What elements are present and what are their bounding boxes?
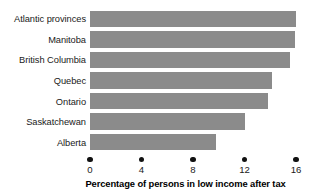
bar	[90, 52, 290, 68]
x-tick: 8	[178, 153, 208, 175]
category-label: Alberta	[57, 138, 86, 148]
bar	[90, 134, 216, 150]
x-tick-label: 0	[75, 164, 105, 175]
tick-dot-icon	[293, 157, 298, 162]
category-label: Atlantic provinces	[14, 14, 86, 24]
bar-row	[90, 50, 296, 71]
x-tick-label: 8	[178, 164, 208, 175]
bar-row	[90, 71, 296, 92]
category-label: Manitoba	[48, 35, 86, 45]
bar	[90, 113, 245, 129]
category-axis-labels: Atlantic provinces Manitoba British Colu…	[0, 9, 86, 153]
category-label: Ontario	[56, 97, 86, 107]
category-label-row: British Columbia	[0, 50, 86, 71]
x-tick: 0	[75, 153, 105, 175]
x-axis-title-text: Percentage of persons in low income afte…	[39, 178, 285, 189]
bar-row	[90, 112, 296, 133]
category-label-row: Quebec	[0, 71, 86, 92]
bar	[90, 11, 296, 27]
category-label: Saskatchewan	[26, 117, 86, 127]
tick-dot-icon	[139, 157, 144, 162]
bar-row	[90, 9, 296, 30]
x-tick-label: 16	[281, 164, 311, 175]
bar	[90, 93, 268, 109]
category-label: British Columbia	[19, 55, 86, 65]
tick-dot-icon	[87, 157, 92, 162]
plot-area	[90, 9, 296, 153]
category-label-row: Saskatchewan	[0, 112, 86, 133]
tick-dot-icon	[242, 157, 247, 162]
category-label: Quebec	[54, 76, 86, 86]
x-tick-label: 12	[230, 164, 260, 175]
x-tick: 12	[230, 153, 260, 175]
x-tick: 16	[281, 153, 311, 175]
category-label-row: Alberta	[0, 132, 86, 153]
category-label-row: Manitoba	[0, 30, 86, 51]
bar-row	[90, 91, 296, 112]
bar-chart: Atlantic provinces Manitoba British Colu…	[0, 0, 325, 195]
category-label-row: Atlantic provinces	[0, 9, 86, 30]
x-tick: 4	[127, 153, 157, 175]
bar-row	[90, 30, 296, 51]
x-axis-title: Percentage of persons in low income afte…	[0, 178, 325, 189]
tick-dot-icon	[190, 157, 195, 162]
bar-row	[90, 132, 296, 153]
category-label-row: Ontario	[0, 91, 86, 112]
bar	[90, 31, 295, 47]
bar	[90, 72, 272, 88]
x-tick-label: 4	[127, 164, 157, 175]
